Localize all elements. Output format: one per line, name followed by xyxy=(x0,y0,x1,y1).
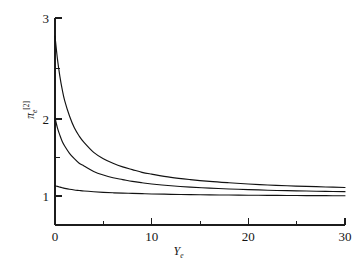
plot-canvas: 3 2 1 0 10 20 30 xyxy=(0,0,357,271)
x-axis-minor-ticks xyxy=(103,221,296,226)
curve-upper-curve xyxy=(55,36,345,187)
y-axis-label-symbol: π xyxy=(24,113,36,119)
y-axis-minor-ticks xyxy=(55,69,60,158)
chart-figure: 3 2 1 0 10 20 30 πe[2] Ye xyxy=(0,0,357,271)
x-axis-label-subscript: e xyxy=(180,251,183,260)
y-axis-label-superscript: [2] xyxy=(22,101,31,110)
x-axis-label: Ye xyxy=(0,241,357,260)
y-axis-label-subscript: e xyxy=(30,110,39,113)
data-curves xyxy=(55,36,345,196)
y-tick-label-3: 3 xyxy=(43,11,50,26)
y-tick-label-1: 1 xyxy=(43,189,50,204)
y-axis-label: πe[2] xyxy=(14,96,48,124)
